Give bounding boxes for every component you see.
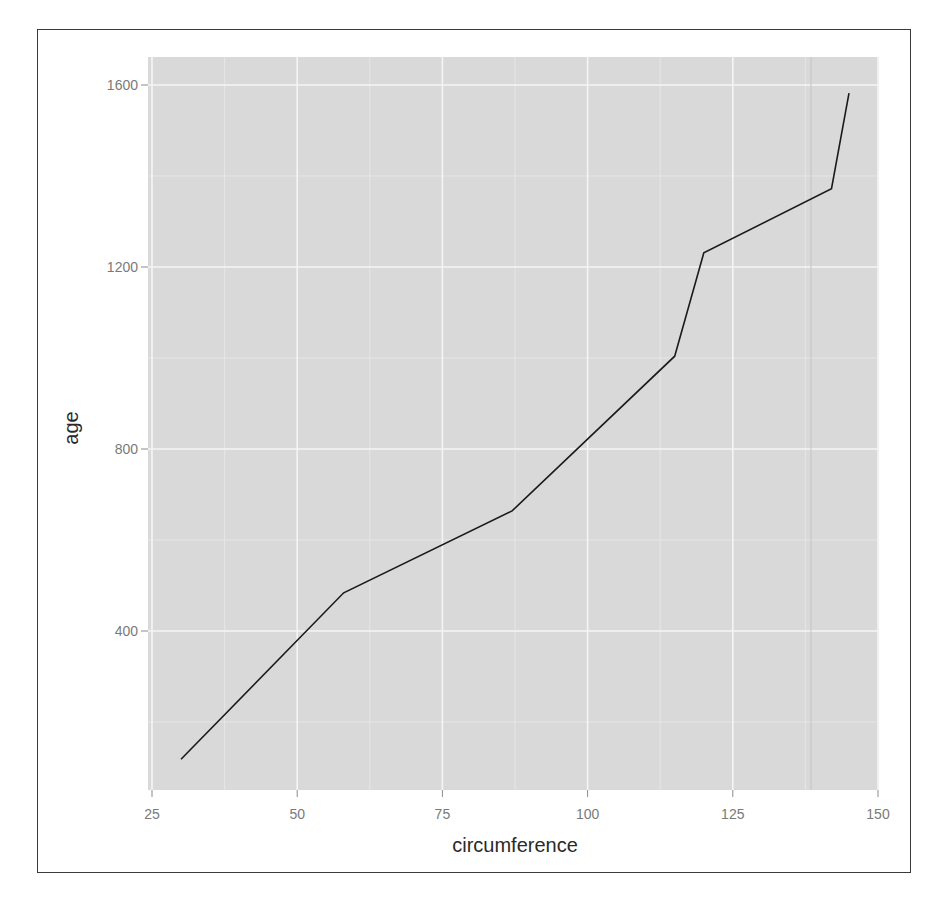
y-axis-ticks: 40080012001600	[107, 77, 148, 639]
x-axis-ticks: 255075100125150	[144, 790, 890, 822]
y-tick-label: 400	[115, 623, 139, 639]
y-axis-title: age	[60, 411, 82, 444]
x-tick-label: 25	[144, 806, 160, 822]
y-tick-label: 800	[115, 441, 139, 457]
x-tick-label: 50	[289, 806, 305, 822]
y-tick-label: 1200	[107, 259, 138, 275]
y-tick-label: 1600	[107, 77, 138, 93]
line-chart: 255075100125150 40080012001600 circumfer…	[0, 0, 944, 909]
x-tick-label: 125	[721, 806, 745, 822]
x-tick-label: 75	[435, 806, 451, 822]
x-axis-title: circumference	[452, 834, 578, 856]
x-tick-label: 150	[866, 806, 890, 822]
x-tick-label: 100	[576, 806, 600, 822]
